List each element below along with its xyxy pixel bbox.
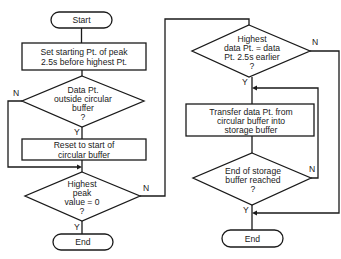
set-start-process: Set starting Pt. of peak 2.5s before hig… xyxy=(22,43,146,70)
peak-zero-no-label: N xyxy=(143,183,149,193)
reset-process: Reset to start of circular buffer xyxy=(22,139,146,160)
set-start-line-2: 2.5s before highest Pt. xyxy=(41,57,127,67)
end-left-label: End xyxy=(75,237,91,247)
outside-buffer-no-label: N xyxy=(13,88,19,98)
arrow-icon xyxy=(252,86,257,91)
peak-zero-line-4: ? xyxy=(80,206,85,216)
set-start-line-1: Set starting Pt. of peak xyxy=(41,47,129,57)
flowchart: Start Set starting Pt. of peak 2.5s befo… xyxy=(0,0,341,259)
storage-end-yes-label: Y xyxy=(243,205,249,215)
arrow-icon xyxy=(252,211,257,216)
end-right-label: End xyxy=(245,234,261,244)
storage-end-line-3: ? xyxy=(251,184,256,194)
highest-equal-yes-label: Y xyxy=(242,77,248,87)
start-terminal: Start xyxy=(51,12,112,28)
outside-buffer-decision: Data Pt. outside circular buffer ? xyxy=(22,76,144,127)
highest-equal-line-4: ? xyxy=(250,61,255,71)
peak-zero-yes-label: Y xyxy=(74,222,80,232)
start-label: Start xyxy=(72,15,91,25)
highest-equal-no-label: N xyxy=(312,37,318,47)
peak-zero-decision: Highest peak value = 0 ? xyxy=(25,172,140,221)
outside-buffer-yes-label: Y xyxy=(74,127,80,137)
storage-end-decision: End of storage buffer reached ? xyxy=(193,153,311,205)
highest-equal-decision: Highest data Pt. = data Pt. 2.5s earlier… xyxy=(192,25,310,77)
storage-end-no-label: N xyxy=(309,164,315,174)
reset-line-1: Reset to start of xyxy=(54,140,115,150)
end-terminal-right: End xyxy=(222,230,283,247)
end-terminal-left: End xyxy=(53,234,113,250)
reset-line-2: circular buffer xyxy=(58,150,110,160)
transfer-process: Transfer data Pt. from circular buffer i… xyxy=(186,104,314,136)
transfer-line-3: storage buffer xyxy=(225,125,278,135)
outside-buffer-line-4: ? xyxy=(81,112,86,122)
arrow-icon xyxy=(77,165,82,170)
